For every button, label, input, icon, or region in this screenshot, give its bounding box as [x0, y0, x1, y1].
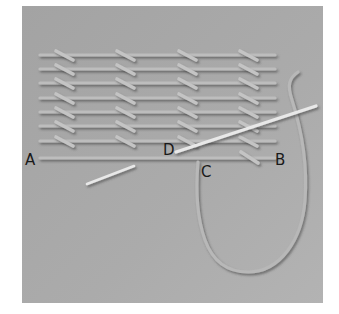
label-c: C	[201, 165, 211, 180]
label-a: A	[25, 153, 35, 168]
label-b: B	[275, 153, 285, 168]
stitch-diagram: A B C D	[0, 0, 339, 314]
label-d: D	[163, 143, 175, 158]
